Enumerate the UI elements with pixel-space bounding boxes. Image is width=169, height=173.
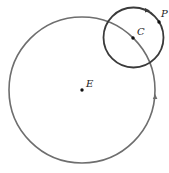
orbit-diagram: E C P [0, 0, 169, 173]
point-P [157, 20, 160, 23]
label-E: E [85, 78, 94, 89]
large-circle-arrow-icon [153, 94, 158, 99]
point-E [80, 88, 83, 91]
point-C [131, 36, 134, 39]
label-P: P [160, 8, 168, 19]
label-C: C [137, 26, 145, 37]
